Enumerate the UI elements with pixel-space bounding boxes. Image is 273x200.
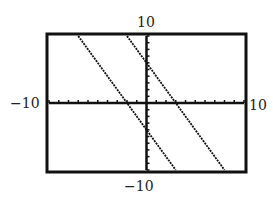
- plot-area: [0, 0, 273, 200]
